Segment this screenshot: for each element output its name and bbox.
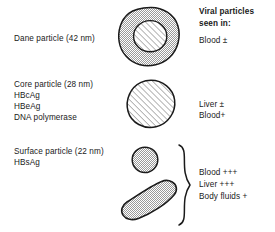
dane-particle-label: Dane particle (42 nm): [14, 33, 95, 44]
surface-particle-seen-in-blood: Blood +++: [199, 167, 237, 178]
surface-particle-label: Surface particle (22 nm): [14, 146, 104, 157]
dane-particle-seen-in-blood: Blood ±: [199, 35, 227, 46]
surface-particle-seen-in-body-fluids: Body fluids +: [199, 191, 247, 202]
core-particle-hbcag: HBcAg: [14, 90, 40, 101]
viral-particles-header-line1: Viral particles: [199, 6, 254, 17]
core-particle-seen-in-blood: Blood+: [199, 110, 225, 121]
core-particle-hbeag: HBeAg: [14, 101, 40, 112]
core-particle-label: Core particle (28 nm): [14, 79, 93, 90]
hepatitis-b-particles-figure: Dane particle (42 nm) Viral particles se…: [0, 0, 275, 232]
surface-particle-brace: [176, 144, 192, 226]
surface-particle-hbsag: HBsAg: [14, 157, 40, 168]
dane-particle: [117, 6, 183, 68]
surface-particle-sphere: [131, 146, 159, 174]
core-particle-dna-polymerase: DNA polymerase: [14, 112, 77, 123]
core-particle: [126, 79, 176, 129]
surface-particle-seen-in-liver: Liver +++: [199, 179, 234, 190]
surface-particle-filament: [118, 178, 180, 223]
viral-particles-header-line2: seen in:: [199, 18, 231, 29]
core-particle-seen-in-liver: Liver ±: [199, 99, 224, 110]
